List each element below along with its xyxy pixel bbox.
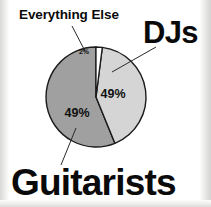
pie-chart-figure: 49% 49% 2% Everything Else DJs Guitarist… [0,0,211,207]
callout-label-everything-else: Everything Else [19,8,119,22]
pie-slice-label-djs: 49% [100,87,125,101]
callout-label-djs: DJs [143,17,198,48]
callout-label-guitarists: Guitarists [11,164,176,201]
pie-slice-label-everything-else: 2% [79,48,90,55]
pie-slice-label-guitarists: 49% [64,106,89,120]
